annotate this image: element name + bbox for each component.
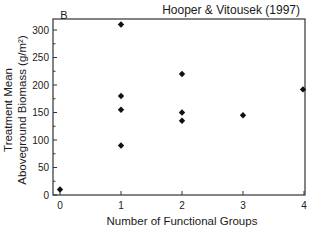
data-point-marker	[118, 142, 124, 148]
y-tick-label: 200	[32, 80, 49, 91]
x-tick-label: 2	[179, 200, 185, 211]
data-point-marker	[179, 109, 185, 115]
y-tick-label: 250	[32, 52, 49, 63]
y-axis-label-line2: Aboveground Biomass (g/m²)	[16, 35, 28, 185]
x-tick-label: 4	[301, 200, 307, 211]
data-point-marker	[240, 112, 246, 118]
data-points	[57, 21, 306, 192]
data-point-marker	[118, 21, 124, 27]
chart-title: Hooper & Vitousek (1997)	[162, 3, 300, 17]
y-tick-label: 0	[43, 190, 49, 201]
data-point-marker	[118, 93, 124, 99]
y-tick-label: 50	[38, 162, 50, 173]
y-axis-label-line1: Treatment Mean	[2, 68, 14, 152]
x-tick-label: 1	[118, 200, 124, 211]
y-tick-label: 100	[32, 135, 49, 146]
x-axis-ticks: 01234	[57, 191, 307, 211]
panel-label: B	[60, 9, 67, 21]
data-point-marker	[179, 71, 185, 77]
scatter-chart: 050100150200250300 01234 B Hooper & Vito…	[0, 0, 311, 231]
plot-frame	[53, 19, 305, 195]
x-tick-label: 0	[57, 200, 63, 211]
y-tick-label: 150	[32, 107, 49, 118]
x-tick-label: 3	[240, 200, 246, 211]
y-tick-label: 300	[32, 25, 49, 36]
data-point-marker	[57, 186, 63, 192]
x-axis-label: Number of Functional Groups	[107, 215, 258, 227]
data-point-marker	[118, 107, 124, 113]
axes-box	[53, 19, 305, 195]
data-point-marker	[179, 118, 185, 124]
